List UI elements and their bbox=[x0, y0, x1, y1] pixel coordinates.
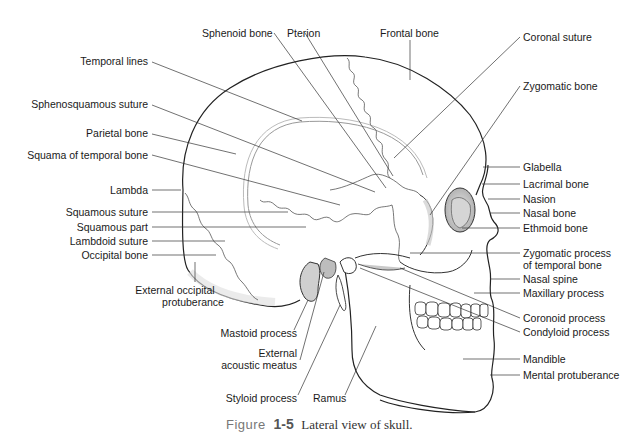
label-temporal-lines: Temporal lines bbox=[0, 55, 148, 67]
skull-diagram: Sphenoid bone Pterion Frontal bone Coron… bbox=[0, 0, 644, 443]
label-lacrimal-bone: Lacrimal bone bbox=[523, 178, 589, 190]
label-nasal-spine: Nasal spine bbox=[523, 273, 578, 285]
caption-number: 1-5 bbox=[273, 416, 293, 432]
label-maxillary-process: Maxillary process bbox=[523, 287, 604, 299]
cranium-outline bbox=[183, 56, 486, 195]
label-sphenosquamous-suture: Sphenosquamous suture bbox=[0, 98, 148, 110]
label-external-acoustic-line1: External bbox=[150, 347, 297, 359]
styloid-process-shape bbox=[336, 275, 346, 311]
label-coronal-suture: Coronal suture bbox=[523, 31, 592, 43]
external-acoustic-meatus-shape bbox=[320, 258, 336, 278]
mastoid-process-shape bbox=[300, 262, 320, 301]
label-lambda: Lambda bbox=[0, 184, 148, 196]
label-squama-of-temporal-bone: Squama of temporal bone bbox=[0, 149, 148, 161]
label-external-acoustic-line2: acoustic meatus bbox=[150, 359, 297, 371]
label-ramus: Ramus bbox=[313, 392, 346, 404]
label-frontal-bone: Frontal bone bbox=[380, 27, 439, 39]
caption-prefix: Figure bbox=[226, 417, 266, 432]
label-coronoid-process: Coronoid process bbox=[523, 312, 605, 324]
label-mental-protuberance: Mental protuberance bbox=[523, 369, 619, 381]
label-mandible: Mandible bbox=[523, 353, 566, 365]
label-mastoid-process: Mastoid process bbox=[150, 327, 297, 339]
caption-text: Lateral view of skull. bbox=[301, 417, 412, 432]
label-sphenoid-bone: Sphenoid bone bbox=[202, 27, 273, 39]
label-ethmoid-bone: Ethmoid bone bbox=[523, 222, 588, 234]
label-lambdoid-suture: Lambdoid suture bbox=[0, 235, 148, 247]
label-zygomatic-bone: Zygomatic bone bbox=[523, 80, 598, 92]
label-styloid-process: Styloid process bbox=[150, 392, 297, 404]
temporal-lines bbox=[248, 121, 423, 245]
label-pterion: Pterion bbox=[287, 27, 320, 39]
figure-caption: Figure 1-5 Lateral view of skull. bbox=[226, 416, 413, 433]
label-occipital-bone: Occipital bone bbox=[0, 249, 148, 261]
squamous-suture-line bbox=[260, 200, 392, 222]
label-squamous-part: Squamous part bbox=[0, 221, 148, 233]
label-external-occipital-line2: protuberance bbox=[118, 296, 268, 308]
label-zygomatic-process-line1: Zygomatic process bbox=[523, 247, 611, 259]
label-parietal-bone: Parietal bone bbox=[0, 127, 148, 139]
label-nasion: Nasion bbox=[523, 193, 556, 205]
label-glabella: Glabella bbox=[523, 161, 562, 173]
teeth bbox=[415, 302, 488, 330]
label-zygomatic-process-line2: of temporal bone bbox=[523, 259, 602, 271]
label-external-occipital-line1: External occipital bbox=[100, 284, 250, 296]
label-nasal-bone: Nasal bone bbox=[523, 207, 576, 219]
label-condyloid-process: Condyloid process bbox=[523, 326, 609, 338]
label-squamous-suture: Squamous suture bbox=[0, 206, 148, 218]
